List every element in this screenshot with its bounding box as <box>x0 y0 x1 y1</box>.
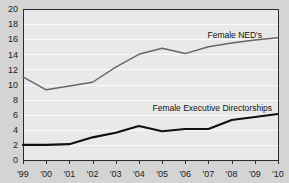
x-tick-label: '01 <box>63 169 75 179</box>
y-tick-label: 4 <box>13 125 18 135</box>
x-tick-label: '09 <box>249 169 261 179</box>
y-tick-label: 2 <box>13 140 18 150</box>
y-tick-label: 14 <box>8 50 18 60</box>
y-tick-label: 18 <box>8 19 18 29</box>
x-tick-label: '07 <box>203 169 215 179</box>
y-tick-label: 6 <box>13 110 18 120</box>
y-tick-label: 0 <box>13 155 18 165</box>
x-tick-label: '03 <box>110 169 122 179</box>
y-tick-label: 8 <box>13 95 18 105</box>
line-chart: 02468101214161820 '99'00'01'02'03'04'05'… <box>0 0 289 183</box>
x-tick-label: '99 <box>17 169 29 179</box>
x-tick-label: '04 <box>133 169 145 179</box>
chart-canvas: 02468101214161820 '99'00'01'02'03'04'05'… <box>0 0 289 183</box>
y-tick-label: 12 <box>8 65 18 75</box>
x-tick-label: '10 <box>272 169 284 179</box>
series-label-female-executive-directorships: Female Executive Directorships <box>152 103 272 113</box>
series-label-female-neds: Female NED's <box>207 30 262 40</box>
x-tick-label: '06 <box>179 169 191 179</box>
y-tick-label: 10 <box>8 80 18 90</box>
x-tick-label: '05 <box>156 169 168 179</box>
x-tick-label: '00 <box>40 169 52 179</box>
x-tick-label: '02 <box>87 169 99 179</box>
y-tick-label: 20 <box>8 4 18 14</box>
y-tick-label: 16 <box>8 34 18 44</box>
x-tick-label: '08 <box>226 169 238 179</box>
